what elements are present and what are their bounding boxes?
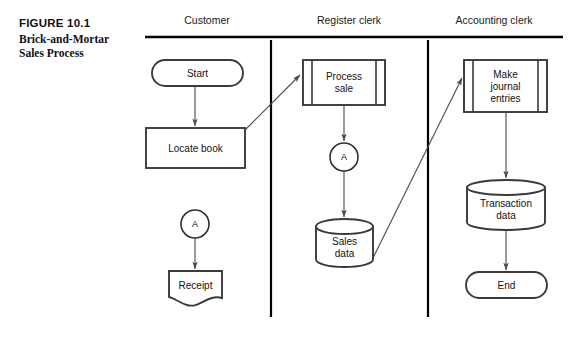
node-end[interactable]: End (466, 272, 547, 298)
node-connector-a-register-label-line: A (341, 152, 347, 162)
flow-sales-data-to-make-journal-entries (373, 78, 462, 258)
node-transaction-data[interactable]: Transactiondata (467, 180, 545, 230)
lane-label-customer: Customer (184, 14, 230, 26)
node-start[interactable]: Start (152, 60, 243, 86)
swimlane-flowchart: CustomerRegister clerkAccounting clerk S… (0, 0, 576, 339)
node-sales-data-label-line: data (335, 248, 355, 259)
node-locate-book[interactable]: Locate book (146, 128, 245, 168)
node-receipt-label-line: Receipt (179, 280, 213, 291)
node-sales-data-label-line: Sales (332, 236, 357, 247)
node-end-label-line: End (498, 280, 516, 291)
node-transaction-data-label-line: data (496, 210, 516, 221)
node-make-journal-entries-label-line: Make (493, 69, 518, 80)
node-locate-book-label: Locate book (168, 143, 223, 154)
node-sales-data-label: Salesdata (332, 236, 357, 259)
node-make-journal-entries-label-line: entries (490, 93, 520, 104)
node-connector-a-register[interactable]: A (330, 143, 358, 171)
node-connector-a-customer-label-line: A (192, 219, 198, 229)
node-receipt-label: Receipt (179, 280, 213, 291)
node-locate-book-label-line: Locate book (168, 143, 223, 154)
figure-page: FIGURE 10.1 Brick-and-Mortar Sales Proce… (0, 0, 576, 339)
node-make-journal-entries-label-line: journal (489, 81, 520, 92)
lane-label-register-clerk: Register clerk (317, 14, 382, 26)
lane-header-labels: CustomerRegister clerkAccounting clerk (184, 14, 533, 26)
node-make-journal-entries[interactable]: Makejournalentries (464, 60, 547, 112)
node-connector-a-customer-label: A (192, 219, 198, 229)
node-process-sale-label-line: Process (326, 71, 362, 82)
flow-locate-book-to-process-sale (245, 75, 300, 130)
lane-label-accounting-clerk: Accounting clerk (455, 14, 533, 26)
node-end-label: End (498, 280, 516, 291)
node-start-label: Start (187, 68, 208, 79)
node-transaction-data-label-line: Transaction (480, 198, 532, 209)
flowchart-nodes: StartLocate bookAReceiptProcesssaleASale… (146, 60, 547, 306)
node-start-label-line: Start (187, 68, 208, 79)
node-sales-data[interactable]: Salesdata (316, 219, 373, 267)
node-make-journal-entries-label: Makejournalentries (489, 69, 520, 104)
node-receipt[interactable]: Receipt (169, 271, 222, 306)
node-connector-a-customer[interactable]: A (181, 210, 209, 238)
node-process-sale[interactable]: Processsale (303, 60, 385, 105)
node-process-sale-label-line: sale (335, 83, 354, 94)
node-connector-a-register-label: A (341, 152, 347, 162)
